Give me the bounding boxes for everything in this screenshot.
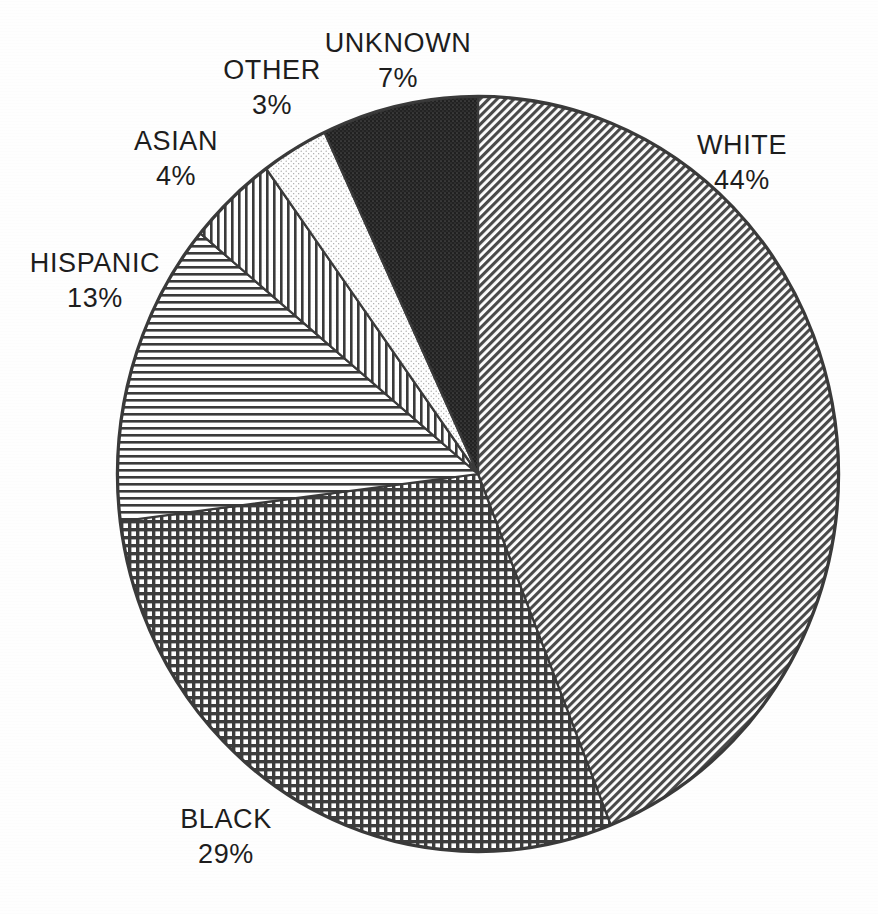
pie-chart-page: WHITE 44%BLACK 29%HISPANIC 13%ASIAN 4%OT… — [0, 0, 878, 914]
slice-label-hispanic-value: 13% — [10, 281, 180, 316]
slice-label-asian-name: ASIAN — [96, 124, 256, 159]
slice-label-white-name: WHITE — [662, 128, 822, 163]
pie-slice-group: WHITE 44%BLACK 29%HISPANIC 13%ASIAN 4%OT… — [118, 97, 838, 851]
slice-label-hispanic-name: HISPANIC — [10, 246, 180, 281]
slice-label-hispanic: HISPANIC 13% — [10, 246, 180, 316]
slice-label-white: WHITE 44% — [662, 128, 822, 198]
slice-label-black-name: BLACK — [146, 802, 306, 837]
slice-label-unknown-value: 7% — [318, 61, 478, 96]
slice-label-black-value: 29% — [146, 837, 306, 872]
slice-label-white-value: 44% — [662, 163, 822, 198]
slice-label-asian-value: 4% — [96, 159, 256, 194]
slice-label-unknown: UNKNOWN 7% — [318, 26, 478, 96]
slice-label-unknown-name: UNKNOWN — [318, 26, 478, 61]
slice-label-black: BLACK 29% — [146, 802, 306, 872]
slice-label-asian: ASIAN 4% — [96, 124, 256, 194]
